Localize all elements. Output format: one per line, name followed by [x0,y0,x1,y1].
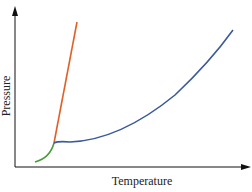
phase-diagram: Pressure Temperature [0,0,252,192]
melting-curve [54,22,77,143]
x-axis [15,164,251,170]
sublimation-curve [35,143,54,162]
y-axis-label: Pressure [0,76,13,117]
x-axis-arrow-icon [241,164,251,170]
x-axis-label: Temperature [112,174,172,188]
vaporization-curve [54,30,233,143]
y-axis-arrow-icon [12,6,18,16]
